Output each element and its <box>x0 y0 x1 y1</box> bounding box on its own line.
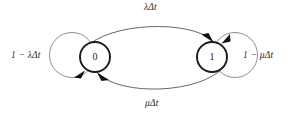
edge-label-self-loop-state-0-text: 1 − λΔt <box>11 50 41 60</box>
state-label-1: 1 <box>210 51 215 62</box>
markov-chain-diagram: 0 1 λΔt μΔt 1 − λΔt 1 − μΔt <box>0 0 291 118</box>
arrowhead-self-loop-state-1 <box>222 34 231 44</box>
edge-label-zero-to-one-text: λΔt <box>144 2 157 12</box>
arrowhead-one-to-zero <box>97 73 109 82</box>
state-label-0: 0 <box>93 51 98 62</box>
edge-label-one-to-zero-text: μΔt <box>145 98 159 108</box>
arrowhead-zero-to-one <box>202 33 214 43</box>
edge-label-self-loop-state-0: 1 − λΔt <box>11 50 41 60</box>
edge-label-zero-to-one: λΔt <box>144 2 157 12</box>
edge-label-self-loop-state-1-text: 1 − μΔt <box>243 50 273 60</box>
edge-label-self-loop-state-1: 1 − μΔt <box>243 50 273 60</box>
edge-label-one-to-zero: μΔt <box>145 98 159 108</box>
